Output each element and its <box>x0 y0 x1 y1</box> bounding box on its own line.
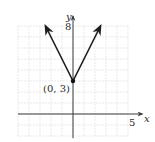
x-axis-label: x <box>144 113 150 124</box>
y-tick-label-8: 8 <box>65 21 71 32</box>
axes <box>18 16 142 138</box>
vertex-label: (0, 3) <box>43 83 70 94</box>
labels: x y 5 8 (0, 3) <box>43 11 150 128</box>
vertex-point <box>71 79 75 83</box>
graph-canvas: x y 5 8 (0, 3) <box>0 0 155 142</box>
x-tick-label-5: 5 <box>129 117 135 128</box>
